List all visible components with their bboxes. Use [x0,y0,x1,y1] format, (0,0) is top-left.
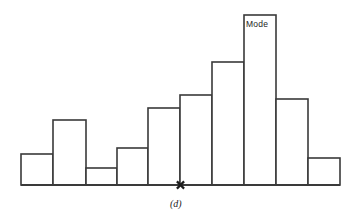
histogram-bar [212,62,244,185]
histogram-svg [0,0,358,217]
histogram-bar [21,154,53,185]
histogram-bar [308,158,340,185]
bars-group [21,15,340,185]
histogram-bar [148,108,180,185]
mode-annotation-label: Mode [246,20,268,29]
histogram-bar [117,148,148,185]
histogram-bar [86,168,117,185]
histogram-bar [244,15,276,185]
histogram-bar [180,95,212,185]
histogram-plot-area [0,0,358,217]
histogram-figure: Mode (d) [0,0,358,217]
figure-caption: (d) [170,199,182,209]
histogram-bar [276,99,308,185]
histogram-bar [53,120,86,185]
